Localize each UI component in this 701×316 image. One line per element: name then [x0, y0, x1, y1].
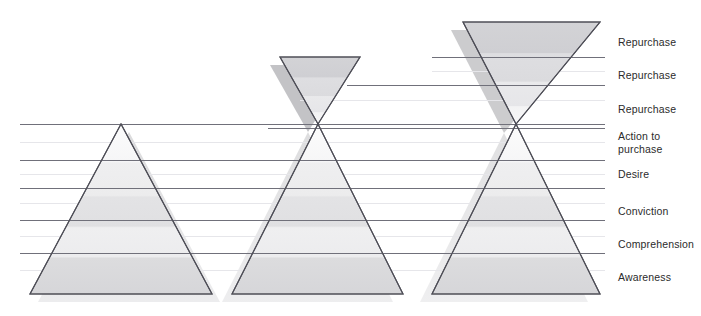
pyramid-left[interactable]: [30, 124, 212, 294]
stage-label-desire: Desire: [618, 168, 649, 181]
stage-label-awareness: Awareness: [618, 271, 671, 284]
hourglass-middle-bottom[interactable]: [232, 124, 403, 294]
stage-label-action-to-purchase: Action to purchase: [618, 130, 662, 155]
stage-label-repurchase-3: Repurchase: [618, 36, 676, 49]
hourglass-right-bottom[interactable]: [432, 124, 600, 294]
stage-label-repurchase-2: Repurchase: [618, 69, 676, 82]
funnel-diagram-svg: [0, 0, 701, 316]
stage-label-repurchase-1: Repurchase: [618, 103, 676, 116]
stage-label-conviction: Conviction: [618, 205, 669, 218]
diagram-canvas: Repurchase Repurchase Repurchase Action …: [0, 0, 701, 316]
stage-label-comprehension: Comprehension: [618, 238, 694, 251]
